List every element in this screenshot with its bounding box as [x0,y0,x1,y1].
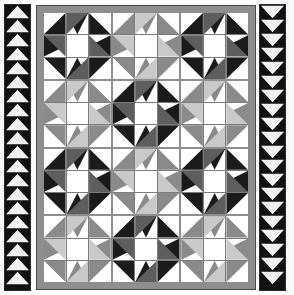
block-patch [135,13,157,34]
block-patch [89,261,111,282]
block-patch [44,81,66,102]
sawtooth-triangle-down [261,243,284,257]
block-patch [89,149,111,170]
sawtooth-triangle-up [6,173,29,187]
block-patch [181,193,203,214]
block-patch [89,239,111,260]
quilt-block-r1-c2 [113,13,180,79]
block-patch [158,149,180,170]
sawtooth-triangle-up [6,131,29,145]
triangle-patch [158,58,180,79]
sawtooth-border-left [4,4,31,291]
triangle-patch [158,81,180,102]
block-patch [135,81,157,102]
sawtooth-triangle-up [6,159,29,173]
sawtooth-triangle-up [6,75,29,89]
quilt-block-r4-c1 [44,216,111,282]
block-patch [89,216,111,237]
block-patch [44,35,66,56]
block-patch [181,13,203,34]
triangle-patch [226,125,248,146]
sawtooth-triangle-down [261,61,284,75]
block-patch [226,13,248,34]
block-patch [226,125,248,146]
block-patch [113,216,135,237]
sawtooth-triangle-down [261,47,284,61]
quilt-block-r4-c2 [113,216,180,282]
block-patch [44,261,66,282]
block-patch [226,261,248,282]
block-center-square [67,35,89,56]
triangle-patch [89,261,111,282]
sawtooth-triangle-down [261,215,284,229]
block-center-square [204,103,226,124]
triangle-patch [158,193,180,214]
block-patch [135,125,157,146]
block-patch [158,58,180,79]
sawtooth-triangle-up [6,215,29,229]
sawtooth-triangle-down [261,89,284,103]
sawtooth-triangle-up [6,117,29,131]
block-patch [204,81,226,102]
triangle-patch [89,125,111,146]
block-patch [89,13,111,34]
triangle-patch [113,81,135,102]
block-patch [67,125,89,146]
triangle-patch [226,81,248,102]
triangle-patch [181,216,203,237]
block-patch [113,239,135,260]
sawtooth-triangle-down [261,131,284,145]
triangle-patch [89,81,111,102]
triangle-patch [44,125,66,146]
triangle-patch [226,58,248,79]
block-patch [44,103,66,124]
sawtooth-triangle-down [261,229,284,243]
sawtooth-triangle-up [6,89,29,103]
triangle-patch [158,149,180,170]
block-patch [204,261,226,282]
sawtooth-triangle-down [261,103,284,117]
block-patch [181,216,203,237]
block-patch [44,239,66,260]
triangle-patch [44,261,66,282]
triangle-patch [44,13,66,34]
triangle-patch [113,125,135,146]
sawtooth-triangle-up [6,271,29,285]
quilt-block-grid [44,13,248,282]
triangle-patch [226,149,248,170]
sawtooth-triangle-down [261,173,284,187]
triangle-patch [158,13,180,34]
block-patch [158,216,180,237]
sawtooth-triangle-down [261,19,284,33]
triangle-patch [89,149,111,170]
block-patch [67,13,89,34]
block-patch [44,149,66,170]
triangle-patch [158,125,180,146]
triangle-patch [113,193,135,214]
block-patch [89,193,111,214]
triangle-patch [158,216,180,237]
block-patch [158,125,180,146]
sawtooth-triangle-down [261,159,284,173]
block-patch [226,149,248,170]
block-patch [204,216,226,237]
triangle-patch [44,216,66,237]
triangle-patch [113,261,135,282]
sawtooth-triangle-down [261,33,284,47]
block-center-square [67,239,89,260]
block-patch [89,125,111,146]
block-patch [113,58,135,79]
block-patch [135,193,157,214]
sawtooth-triangle-down [261,257,284,271]
triangle-patch [226,261,248,282]
block-patch [158,13,180,34]
triangle-patch [113,216,135,237]
sawtooth-triangle-up [6,19,29,33]
quilt-block-r2-c3 [181,81,248,147]
block-patch [113,261,135,282]
block-patch [113,13,135,34]
block-patch [113,149,135,170]
block-patch [67,149,89,170]
block-patch [181,149,203,170]
sawtooth-triangle-up [6,33,29,47]
